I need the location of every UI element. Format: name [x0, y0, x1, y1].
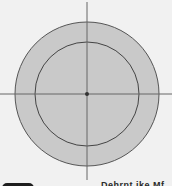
center-point: [85, 92, 89, 96]
concentric-circle-diagram: [0, 0, 172, 186]
dark-pill-button[interactable]: [2, 183, 34, 186]
caption-text: Dehrnt ike Mf: [101, 180, 165, 186]
